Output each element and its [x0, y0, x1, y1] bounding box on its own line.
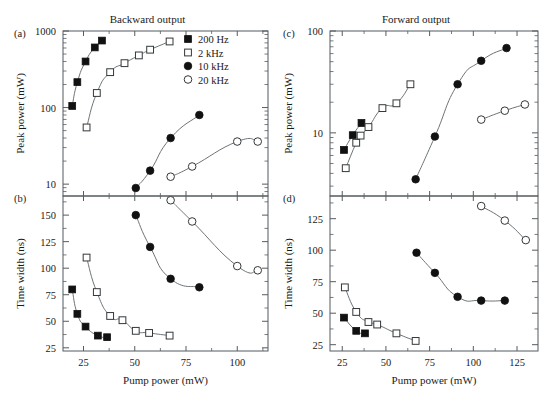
data-point	[501, 297, 509, 305]
marker-open-square	[146, 330, 153, 337]
marker-open-square	[365, 319, 372, 326]
data-point	[522, 236, 530, 244]
series-curve	[171, 200, 258, 273]
y-tick-label: 25	[46, 343, 57, 354]
marker-filled-square	[74, 310, 81, 317]
marker-open-square	[121, 60, 128, 67]
marker-filled-circle	[477, 297, 485, 305]
marker-open-circle	[233, 138, 241, 146]
panel-b-series-200-hz	[69, 286, 111, 341]
marker-filled-circle	[454, 293, 462, 301]
marker-open-circle	[501, 107, 509, 115]
y-tick-label: 50	[313, 308, 324, 319]
marker-filled-square	[358, 120, 365, 127]
legend-marker-200-hz	[185, 36, 192, 43]
data-point	[357, 132, 364, 139]
panel-a-label: (a)	[14, 28, 26, 40]
y-tick-label: 75	[46, 290, 57, 301]
panel-a-series-20-khz	[167, 138, 262, 181]
panel-a: 101001000Peak power (mW)(a)Backward outp…	[14, 13, 268, 196]
data-point	[374, 321, 381, 328]
marker-open-square	[93, 289, 100, 296]
marker-filled-circle	[132, 211, 140, 219]
x-tick-label: 50	[130, 357, 141, 368]
data-point	[132, 211, 140, 219]
marker-open-square	[166, 332, 173, 339]
marker-filled-square	[104, 334, 111, 341]
panel-c-label: (c)	[283, 28, 295, 40]
marker-open-square	[147, 46, 154, 53]
series-curve	[416, 48, 507, 179]
data-point	[132, 327, 139, 334]
marker-filled-square	[185, 36, 192, 43]
data-point	[94, 332, 101, 339]
marker-filled-square	[82, 58, 89, 65]
marker-open-square	[341, 284, 348, 291]
data-point	[82, 58, 89, 65]
data-point	[365, 319, 372, 326]
marker-filled-circle	[503, 44, 511, 52]
marker-filled-circle	[477, 57, 485, 65]
marker-filled-circle	[413, 249, 421, 257]
data-point	[358, 120, 365, 127]
marker-open-square	[119, 317, 126, 324]
marker-filled-square	[91, 44, 98, 51]
data-point	[146, 243, 154, 251]
data-point	[365, 124, 372, 131]
y-tick-label: 75	[313, 277, 324, 288]
marker-open-square	[353, 139, 360, 146]
marker-open-square	[83, 124, 90, 131]
marker-open-square	[185, 49, 192, 56]
panel-c: 10100Peak power (mW)(c)Forward output	[282, 13, 538, 196]
legend-marker-10-khz	[184, 62, 192, 70]
data-point	[254, 267, 262, 275]
data-point	[135, 52, 142, 59]
y-tick-label: 50	[46, 316, 57, 327]
panel-c-title: Forward output	[382, 13, 450, 25]
marker-filled-square	[74, 79, 81, 86]
data-point	[132, 184, 140, 192]
panel-d-series-10-khz	[413, 249, 509, 304]
marker-open-square	[135, 52, 142, 59]
y-tick-label: 25	[313, 340, 324, 351]
data-point	[83, 124, 90, 131]
data-point	[166, 38, 173, 45]
marker-filled-circle	[501, 297, 509, 305]
data-point	[431, 269, 439, 277]
data-point	[254, 138, 262, 146]
panel-d: 255075100125Pump power (mW)255075100125T…	[282, 193, 538, 387]
marker-open-circle	[184, 76, 192, 84]
legend-marker-20-khz	[184, 76, 192, 84]
data-point	[119, 317, 126, 324]
marker-filled-square	[349, 132, 356, 139]
marker-open-square	[93, 90, 100, 97]
data-point	[341, 147, 348, 154]
data-point	[188, 218, 196, 226]
marker-filled-circle	[412, 176, 420, 184]
data-point	[146, 330, 153, 337]
data-point	[167, 275, 175, 283]
data-point	[167, 134, 175, 142]
data-point	[454, 80, 462, 88]
data-point	[412, 176, 420, 184]
data-point	[74, 79, 81, 86]
marker-open-square	[374, 321, 381, 328]
y-tick-label: 125	[40, 237, 56, 248]
marker-filled-circle	[431, 269, 439, 277]
panel-c-series-2-khz	[342, 81, 413, 172]
data-point	[503, 44, 511, 52]
data-point	[233, 262, 241, 270]
data-point	[146, 167, 154, 175]
marker-open-circle	[188, 163, 196, 171]
data-point	[83, 254, 90, 261]
legend-label: 20 kHz	[198, 75, 229, 86]
data-point	[413, 249, 421, 257]
x-tick-label: 50	[381, 357, 392, 368]
data-point	[93, 289, 100, 296]
panel-d-series-20-khz	[477, 202, 529, 244]
marker-filled-square	[99, 37, 106, 44]
data-point	[501, 217, 509, 225]
x-tick-label: 125	[509, 357, 525, 368]
marker-filled-circle	[146, 167, 154, 175]
data-point	[167, 173, 175, 181]
